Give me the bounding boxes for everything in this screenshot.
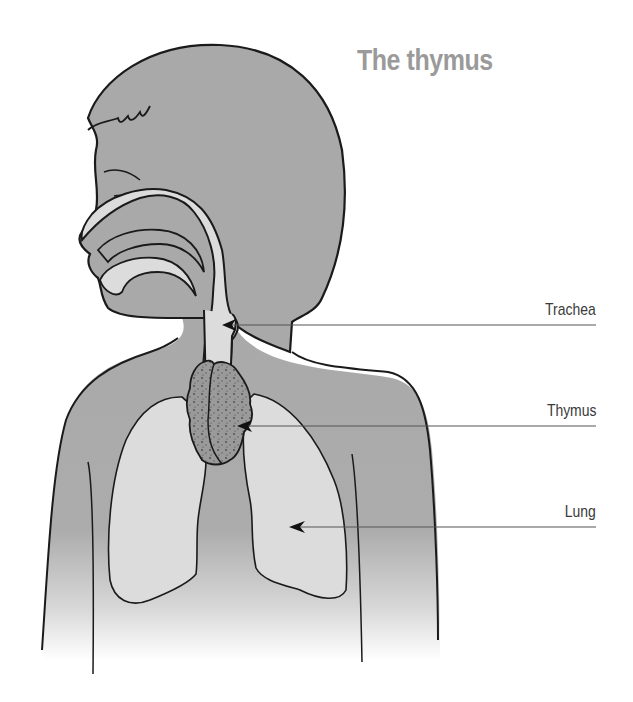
label-lung: Lung xyxy=(565,502,596,522)
label-thymus: Thymus xyxy=(546,401,596,421)
label-trachea: Trachea xyxy=(545,300,596,320)
torso xyxy=(42,318,440,660)
thymus-illustration xyxy=(0,0,633,702)
page-title: The thymus xyxy=(357,44,493,77)
